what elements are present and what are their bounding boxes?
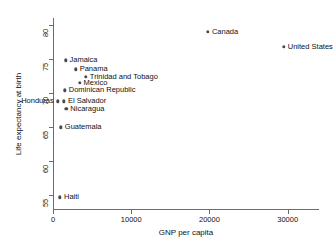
x-tick-label: 30000 <box>258 216 318 224</box>
data-point-label: Honduras <box>21 97 54 105</box>
data-point-marker[interactable] <box>56 100 59 103</box>
x-tick-mark <box>288 210 289 214</box>
x-axis-line <box>53 209 319 210</box>
x-axis-title: GNP per capita <box>53 228 319 237</box>
data-point-label: Guatemala <box>65 123 102 131</box>
y-tick-mark <box>49 93 53 94</box>
x-tick-label: 0 <box>23 216 83 224</box>
y-tick-label: 55 <box>42 199 50 229</box>
data-point-marker[interactable] <box>206 30 209 33</box>
y-tick-mark <box>49 161 53 162</box>
y-tick-label: 65 <box>42 131 50 161</box>
data-point-marker[interactable] <box>62 100 65 103</box>
data-point-marker[interactable] <box>282 45 285 48</box>
data-point-marker[interactable] <box>78 81 81 84</box>
data-point-label: Canada <box>212 28 238 36</box>
data-point-marker[interactable] <box>64 59 67 62</box>
x-tick-mark <box>131 210 132 214</box>
data-point-marker[interactable] <box>58 196 61 199</box>
y-tick-mark <box>49 127 53 128</box>
x-tick-label: 10000 <box>101 216 161 224</box>
y-tick-mark <box>49 195 53 196</box>
data-point-marker[interactable] <box>74 67 77 70</box>
y-axis-title: Life expectancy at birth <box>14 14 23 214</box>
x-tick-label: 20000 <box>179 216 239 224</box>
data-point-label: United States <box>288 43 333 51</box>
data-point-label: Jamaica <box>70 57 98 65</box>
y-axis-line <box>53 18 54 210</box>
y-tick-label: 75 <box>42 63 50 93</box>
data-point-marker[interactable] <box>59 125 62 128</box>
y-tick-mark <box>49 59 53 60</box>
data-point-marker[interactable] <box>65 107 68 110</box>
data-point-label: Haiti <box>64 194 79 202</box>
data-point-label: Nicaragua <box>70 105 104 113</box>
y-tick-label: 60 <box>42 165 50 195</box>
y-tick-label: 80 <box>42 29 50 59</box>
x-tick-mark <box>209 210 210 214</box>
data-point-label: Dominican Republic <box>69 87 136 95</box>
data-point-marker[interactable] <box>63 89 66 92</box>
x-tick-mark <box>53 210 54 214</box>
y-tick-mark <box>49 25 53 26</box>
